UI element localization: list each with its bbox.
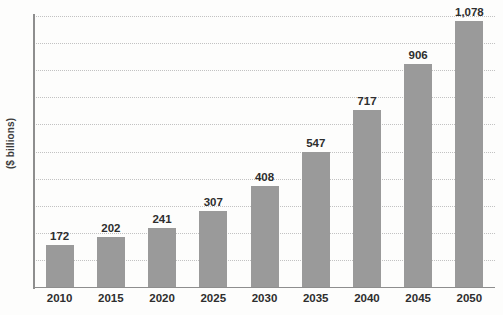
bar-group: 408 (251, 0, 279, 287)
x-axis-tick-label: 2015 (98, 292, 124, 304)
bar-value-label: 202 (101, 222, 120, 234)
bar[interactable] (404, 64, 432, 287)
bar[interactable] (46, 245, 74, 287)
y-axis-title: ($ billions) (2, 0, 20, 287)
bar-value-label: 241 (152, 213, 171, 225)
bar-value-label: 307 (204, 196, 223, 208)
bar[interactable] (148, 228, 176, 287)
bar[interactable] (455, 21, 483, 287)
bar-group: 1,078 (455, 0, 483, 287)
bar-group: 172 (46, 0, 74, 287)
bar-value-label: 1,078 (455, 6, 484, 18)
bar-value-label: 408 (255, 171, 274, 183)
x-axis-line (33, 287, 495, 288)
x-axis-tick-label: 2040 (354, 292, 380, 304)
bar-group: 906 (404, 0, 432, 287)
bar[interactable] (353, 110, 381, 287)
x-axis-tick-label: 2035 (303, 292, 329, 304)
bar-group: 307 (199, 0, 227, 287)
y-axis-title-label: ($ billions) (6, 118, 17, 169)
bar-value-label: 717 (357, 95, 376, 107)
bar-value-label: 906 (409, 49, 428, 61)
bar-value-label: 172 (50, 230, 69, 242)
x-axis-tick-label: 2050 (457, 292, 483, 304)
bars-layer: 1722022413074085477179061,078 (34, 0, 495, 287)
bar-group: 202 (97, 0, 125, 287)
bar-group: 241 (148, 0, 176, 287)
bar-chart: ($ billions) 1722022413074085477179061,0… (0, 0, 503, 315)
bar[interactable] (251, 186, 279, 287)
bar-group: 717 (353, 0, 381, 287)
x-axis-tick-label: 2030 (252, 292, 278, 304)
bar[interactable] (199, 211, 227, 287)
x-axis-tick-label: 2045 (405, 292, 431, 304)
bar[interactable] (302, 152, 330, 287)
x-axis-tick-label: 2020 (149, 292, 175, 304)
x-axis-tick-label: 2025 (200, 292, 226, 304)
bar-value-label: 547 (306, 137, 325, 149)
x-axis-tick-label: 2010 (47, 292, 73, 304)
bar-group: 547 (302, 0, 330, 287)
bar[interactable] (97, 237, 125, 287)
x-axis-tick-labels: 201020152020202520302035204020452050 (34, 292, 495, 314)
